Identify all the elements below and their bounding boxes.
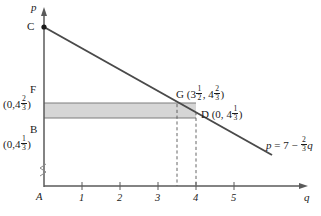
point-coord-d-open: (0, [212, 108, 224, 120]
point-coord-b: (0,413) [3, 135, 31, 152]
point-coord-g-close: ) [221, 88, 225, 100]
point-coord-g-y-whole: 4 [208, 88, 214, 100]
graph-figure: p q C F (0,423) B (0,413) G (312, 423) D… [0, 0, 321, 216]
x-tick-label-1: 1 [79, 193, 84, 204]
line-equation-label: p = 7 − 23q [266, 136, 313, 153]
x-axis-arrow-icon [299, 183, 308, 189]
point-label-c: C [27, 21, 34, 32]
y-axis-label: p [31, 2, 37, 13]
point-label-d-name: D [201, 108, 209, 120]
point-coord-f-fraction: 23 [21, 95, 27, 112]
point-coord-d-close: ) [239, 108, 243, 120]
point-coord-f-open: (0, [3, 98, 15, 110]
point-label-b: B [30, 124, 37, 135]
point-coord-b-whole: 4 [15, 138, 21, 150]
axis-break-icon [40, 164, 46, 176]
point-coord-d-whole: 4 [226, 108, 232, 120]
x-tick-label-2: 2 [117, 193, 122, 204]
graph-canvas [0, 0, 321, 216]
point-label-d: D (0, 413) [201, 105, 242, 122]
x-tick-label-4: 4 [193, 193, 198, 204]
point-label-g-name: G [176, 88, 184, 100]
point-coord-b-open: (0, [3, 138, 15, 150]
point-coord-f-whole: 4 [15, 98, 21, 110]
x-tick-label-3: 3 [155, 193, 160, 204]
point-coord-f-close: ) [27, 98, 31, 110]
point-coord-g-comma: , [203, 88, 206, 100]
point-label-g: G (312, 423) [176, 85, 224, 102]
x-axis-label: q [304, 192, 310, 203]
equation-minus: − [291, 139, 297, 151]
x-axis-origin-label: A [36, 192, 42, 203]
equation-equals: = [274, 139, 280, 151]
point-coord-b-close: ) [27, 138, 31, 150]
equation-slope-fraction: 23 [301, 136, 307, 153]
point-label-f: F [30, 84, 36, 95]
shaded-band [44, 103, 196, 118]
point-coord-g-x-whole: 3 [190, 88, 196, 100]
y-axis-arrow-icon [41, 7, 47, 16]
point-coord-g-y-fraction: 23 [214, 85, 220, 102]
point-coord-f: (0,423) [3, 95, 31, 112]
point-coord-d-fraction: 13 [232, 105, 238, 122]
equation-q: q [307, 139, 313, 151]
point-coord-g-x-fraction: 12 [196, 85, 202, 102]
point-marker-c [41, 24, 46, 29]
x-tick-label-5: 5 [231, 193, 236, 204]
point-coord-b-fraction: 13 [21, 135, 27, 152]
equation-p: p [266, 139, 272, 151]
equation-intercept: 7 [283, 139, 289, 151]
demand-line [44, 27, 272, 155]
